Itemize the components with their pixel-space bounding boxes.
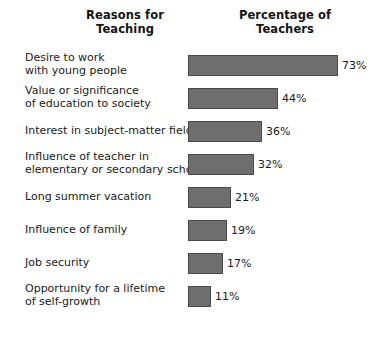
bar-track: 17% xyxy=(188,253,385,274)
bar-row: Interest in subject-matter field36% xyxy=(0,113,385,146)
bar-row-label-line: Influence of teacher in xyxy=(25,150,185,163)
bar-row: Job security17% xyxy=(0,245,385,278)
value-column-header-line-2: Teachers xyxy=(205,22,365,36)
bar-row-label: Influence of teacher inelementary or sec… xyxy=(25,150,185,176)
bar-row-label-line: Interest in subject-matter field xyxy=(25,124,185,137)
bar-track: 11% xyxy=(188,286,385,307)
bar-row: Influence of teacher inelementary or sec… xyxy=(0,146,385,179)
bar xyxy=(188,220,227,241)
bar-row-label: Long summer vacation xyxy=(25,190,185,203)
bar xyxy=(188,286,211,307)
bar-row: Long summer vacation21% xyxy=(0,179,385,212)
bar-value-label: 17% xyxy=(227,256,251,271)
bar-track: 73% xyxy=(188,55,385,76)
bar-row: Desire to workwith young people73% xyxy=(0,47,385,80)
bar-row-label: Interest in subject-matter field xyxy=(25,124,185,137)
bar-row: Opportunity for a lifetimeof self-growth… xyxy=(0,278,385,311)
bar-row: Value or significanceof education to soc… xyxy=(0,80,385,113)
bar-rows: Desire to workwith young people73%Value … xyxy=(0,47,385,311)
bar-row-label-line: Opportunity for a lifetime xyxy=(25,282,185,295)
bar-row-label: Opportunity for a lifetimeof self-growth xyxy=(25,282,185,308)
bar-row-label: Influence of family xyxy=(25,223,185,236)
bar-track: 19% xyxy=(188,220,385,241)
category-column-header: Reasons for Teaching xyxy=(45,8,205,36)
bar xyxy=(188,88,278,109)
bar-row: Influence of family19% xyxy=(0,212,385,245)
bar-value-label: 44% xyxy=(282,91,306,106)
bar-row-label-line: Influence of family xyxy=(25,223,185,236)
bar-chart-figure: Reasons for Teaching Percentage of Teach… xyxy=(0,0,385,337)
bar-track: 32% xyxy=(188,154,385,175)
bar xyxy=(188,55,338,76)
bar-row-label: Job security xyxy=(25,256,185,269)
bar-row-label-line: of self-growth xyxy=(25,295,185,308)
bar-row-label-line: elementary or secondary school xyxy=(25,163,185,176)
bar-track: 36% xyxy=(188,121,385,142)
category-column-header-line-2: Teaching xyxy=(45,22,205,36)
bar-row-label-line: Long summer vacation xyxy=(25,190,185,203)
bar-row-label-line: Desire to work xyxy=(25,51,185,64)
bar-row-label-line: with young people xyxy=(25,64,185,77)
bar-row-label-line: Value or significance xyxy=(25,84,185,97)
bar-value-label: 36% xyxy=(266,124,290,139)
bar-row-label-line: Job security xyxy=(25,256,185,269)
bar xyxy=(188,121,262,142)
bar-value-label: 19% xyxy=(231,223,255,238)
bar-value-label: 21% xyxy=(235,190,259,205)
value-column-header: Percentage of Teachers xyxy=(205,8,365,36)
bar xyxy=(188,187,231,208)
bar xyxy=(188,154,254,175)
category-column-header-line-1: Reasons for xyxy=(45,8,205,22)
bar-value-label: 11% xyxy=(215,289,239,304)
value-column-header-line-1: Percentage of xyxy=(205,8,365,22)
bar-value-label: 32% xyxy=(258,157,282,172)
bar-track: 44% xyxy=(188,88,385,109)
chart-header-row: Reasons for Teaching Percentage of Teach… xyxy=(0,8,385,46)
bar-value-label: 73% xyxy=(342,58,366,73)
bar-row-label: Value or significanceof education to soc… xyxy=(25,84,185,110)
bar xyxy=(188,253,223,274)
bar-track: 21% xyxy=(188,187,385,208)
bar-row-label-line: of education to society xyxy=(25,97,185,110)
bar-row-label: Desire to workwith young people xyxy=(25,51,185,77)
